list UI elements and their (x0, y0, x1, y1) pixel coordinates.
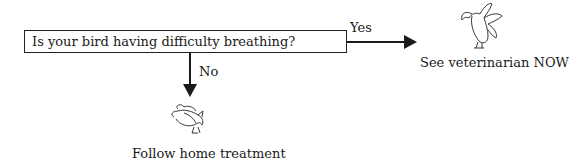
no-arrow (183, 53, 197, 97)
yes-arrow (347, 35, 417, 49)
resting-bird-icon (172, 105, 203, 133)
outcome-see-vet: See veterinarian NOW (420, 55, 569, 70)
alert-parrot-icon (462, 3, 502, 48)
outcome-home-treatment: Follow home treatment (132, 146, 286, 161)
yes-label: Yes (350, 20, 372, 35)
no-label: No (199, 64, 218, 79)
